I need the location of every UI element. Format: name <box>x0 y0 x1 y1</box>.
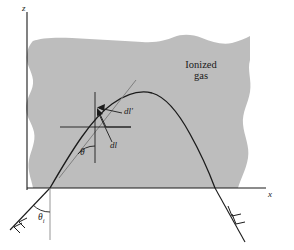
incidence-angle-label: θi <box>38 213 44 224</box>
incidence-angle-arc <box>33 205 50 212</box>
ionized-gas-label: Ionized gas <box>172 60 230 81</box>
incidence-angle-subscript: i <box>43 217 45 224</box>
chord-element-label: dl <box>110 141 117 150</box>
incoming-ray-arrowhead <box>14 218 27 233</box>
arc-element-label: dl' <box>124 107 133 116</box>
ionized-gas-label-line1: Ionized <box>185 59 217 70</box>
outgoing-ray-line <box>215 188 245 242</box>
physics-diagram-figure: z x Ionized gas dl' dl θ θi <box>0 0 294 250</box>
x-axis-label: x <box>268 190 272 199</box>
ionized-gas-region <box>26 35 251 188</box>
ionized-gas-label-line2: gas <box>172 71 230 82</box>
tangent-angle-label: θ <box>80 148 85 158</box>
z-axis-label: z <box>22 4 26 13</box>
